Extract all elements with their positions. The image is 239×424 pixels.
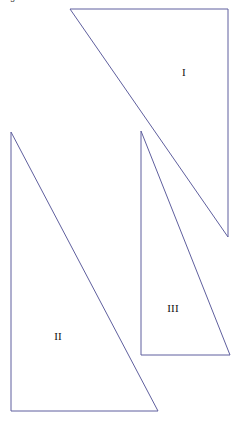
- triangle-label-II: II: [54, 331, 62, 342]
- figure-canvas: angle/dilation of rotation I II III: [0, 0, 239, 424]
- triangle-label-III: III: [167, 303, 179, 314]
- triangle-II: [11, 132, 158, 411]
- triangles-figure: [0, 0, 239, 424]
- triangle-label-I: I: [182, 67, 186, 78]
